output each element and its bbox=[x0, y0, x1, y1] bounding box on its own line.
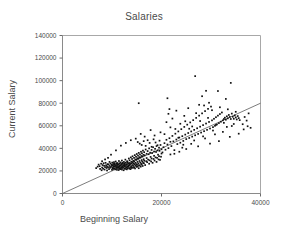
data-point bbox=[174, 153, 176, 155]
data-point bbox=[236, 119, 238, 121]
data-point bbox=[211, 109, 213, 111]
data-point bbox=[138, 158, 140, 160]
data-point bbox=[185, 148, 187, 150]
data-point bbox=[149, 152, 151, 154]
data-point bbox=[107, 166, 109, 168]
data-point bbox=[102, 164, 104, 166]
data-point bbox=[137, 163, 139, 165]
data-point bbox=[176, 139, 178, 141]
data-point bbox=[221, 112, 223, 114]
data-point bbox=[177, 137, 179, 139]
data-point bbox=[144, 155, 146, 157]
data-point bbox=[150, 129, 152, 131]
data-point bbox=[151, 158, 153, 160]
data-point bbox=[242, 123, 244, 125]
data-point bbox=[153, 158, 155, 160]
data-point bbox=[110, 154, 112, 156]
data-point bbox=[183, 126, 185, 128]
data-point bbox=[217, 115, 219, 117]
data-point bbox=[157, 150, 159, 152]
data-point bbox=[145, 149, 147, 151]
data-point bbox=[181, 147, 183, 149]
data-point bbox=[189, 122, 191, 124]
data-point bbox=[182, 144, 184, 146]
data-point bbox=[190, 143, 192, 145]
data-point bbox=[205, 123, 207, 125]
data-point bbox=[121, 169, 123, 171]
data-point bbox=[151, 146, 153, 148]
data-point bbox=[105, 162, 107, 164]
data-point bbox=[148, 148, 150, 150]
data-point bbox=[233, 123, 235, 125]
data-point bbox=[146, 157, 148, 159]
data-point bbox=[202, 136, 204, 138]
data-point bbox=[182, 140, 184, 142]
data-point bbox=[141, 152, 143, 154]
data-point bbox=[214, 134, 216, 136]
data-point bbox=[170, 127, 172, 129]
data-point bbox=[149, 159, 151, 161]
data-point bbox=[143, 140, 145, 142]
data-point bbox=[156, 157, 158, 159]
data-point bbox=[212, 130, 214, 132]
data-point bbox=[156, 161, 158, 163]
data-point bbox=[131, 158, 133, 160]
data-point bbox=[130, 139, 132, 141]
data-point bbox=[234, 115, 236, 117]
data-point bbox=[120, 162, 122, 164]
data-point bbox=[231, 113, 233, 115]
data-point bbox=[147, 150, 149, 152]
data-point bbox=[175, 133, 177, 135]
data-point bbox=[128, 158, 130, 160]
data-point bbox=[101, 160, 103, 162]
data-point bbox=[174, 149, 176, 151]
data-point bbox=[196, 127, 198, 129]
data-point bbox=[203, 105, 205, 107]
data-point bbox=[193, 129, 195, 131]
data-point bbox=[247, 125, 249, 127]
data-point bbox=[195, 117, 197, 119]
y-tick-label: 140000 bbox=[35, 32, 57, 39]
data-point bbox=[104, 159, 106, 161]
data-point bbox=[149, 142, 151, 144]
data-point bbox=[141, 144, 143, 146]
data-point bbox=[209, 128, 211, 130]
data-point bbox=[115, 161, 117, 163]
data-point bbox=[226, 126, 228, 128]
data-point bbox=[195, 112, 197, 114]
data-point bbox=[99, 168, 101, 170]
data-point bbox=[204, 110, 206, 112]
data-point bbox=[144, 136, 146, 138]
data-point bbox=[98, 164, 100, 166]
data-point bbox=[129, 163, 131, 165]
data-point bbox=[246, 120, 248, 122]
data-point bbox=[146, 153, 148, 155]
data-point bbox=[197, 133, 199, 135]
data-point bbox=[116, 169, 118, 171]
data-point bbox=[130, 157, 132, 159]
data-point bbox=[199, 126, 201, 128]
data-point bbox=[141, 159, 143, 161]
data-point bbox=[136, 153, 138, 155]
data-point bbox=[161, 148, 163, 150]
data-point bbox=[139, 160, 141, 162]
data-point bbox=[145, 145, 147, 147]
data-point bbox=[176, 110, 178, 112]
data-point bbox=[168, 147, 170, 149]
data-point bbox=[109, 165, 111, 167]
data-point bbox=[208, 121, 210, 123]
data-point bbox=[179, 123, 181, 125]
data-point bbox=[206, 129, 208, 131]
data-point bbox=[219, 113, 221, 115]
data-point bbox=[154, 148, 156, 150]
scatter-chart: Salaries 0200004000060000800001000001200… bbox=[0, 0, 288, 243]
data-point bbox=[198, 104, 200, 106]
plot-frame bbox=[63, 36, 261, 194]
data-point bbox=[219, 106, 221, 108]
data-point bbox=[158, 159, 160, 161]
data-point bbox=[193, 140, 195, 142]
y-tick-label: 60000 bbox=[38, 122, 56, 129]
data-point bbox=[155, 142, 157, 144]
data-point bbox=[210, 106, 212, 108]
data-point bbox=[229, 116, 231, 118]
